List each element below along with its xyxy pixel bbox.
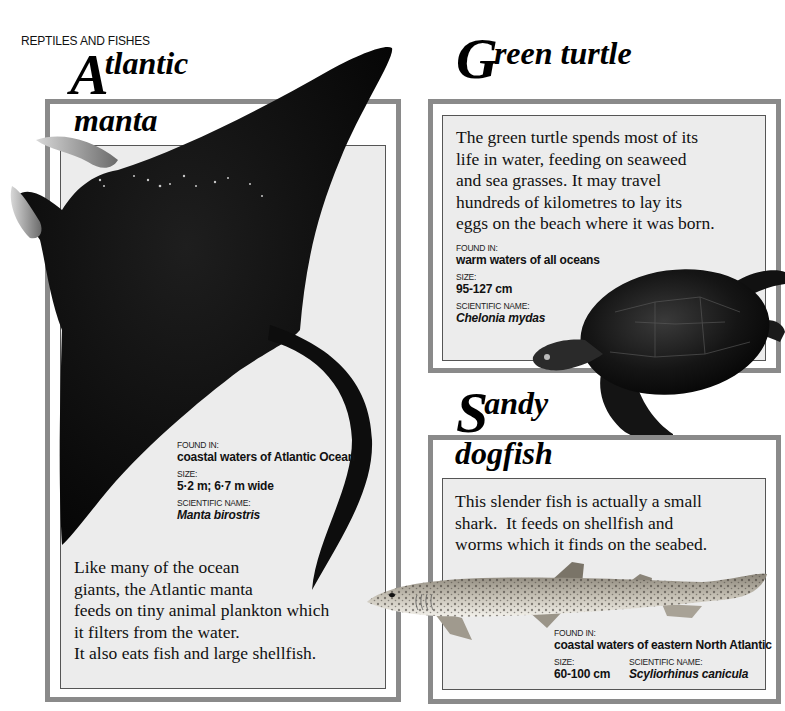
dogfish-found-in-label: FOUND IN:: [554, 628, 774, 638]
manta-description-line: feeds on tiny animal plankton which: [74, 600, 394, 622]
manta-ray-illustration: [0, 0, 420, 620]
turtle-title-rest: reen turtle: [494, 35, 632, 71]
turtle-description: The green turtle spends most of its life…: [456, 127, 766, 235]
dogfish-description-line: worms which it finds on the seabed.: [455, 534, 765, 556]
turtle-description-line: hundreds of kilometres to lay its: [456, 192, 766, 214]
dogfish-title: Sandy: [456, 384, 548, 442]
dogfish-scientific-name: Scyliorhinus canicula: [629, 667, 748, 681]
manta-description-line: Like many of the ocean: [74, 557, 394, 579]
manta-size-label: SIZE:: [177, 469, 377, 479]
turtle-title-initial: G: [456, 26, 494, 91]
manta-size: 5·2 m; 6·7 m wide: [177, 479, 377, 493]
dogfish-title-rest: andy: [484, 385, 548, 421]
manta-description-line: It also eats fish and large shellfish.: [74, 643, 394, 665]
dogfish-description-line: shark. It feeds on shellfish and: [455, 513, 765, 535]
turtle-title: Green turtle: [456, 30, 632, 88]
manta-found-in: coastal waters of Atlantic Ocean: [177, 450, 377, 464]
dogfish-size-label: SIZE:: [554, 657, 629, 667]
dogfish-size-scientific-row: SIZE: 60-100 cm SCIENTIFIC NAME: Scylior…: [554, 657, 774, 681]
manta-description: Like many of the ocean giants, the Atlan…: [74, 557, 394, 665]
turtle-description-line: eggs on the beach where it was born.: [456, 213, 766, 235]
turtle-description-line: and sea grasses. It may travel: [456, 170, 766, 192]
dogfish-title-line2: dogfish: [455, 437, 553, 469]
dogfish-description-line: This slender fish is actually a small: [455, 491, 765, 513]
dogfish-found-in: coastal waters of eastern North Atlantic: [554, 638, 774, 652]
green-turtle-illustration: [525, 262, 785, 447]
turtle-description-line: The green turtle spends most of its: [456, 127, 766, 149]
dogfish-size: 60-100 cm: [554, 667, 629, 681]
manta-scientific-label: SCIENTIFIC NAME:: [177, 498, 377, 508]
manta-scientific-name: Manta birostris: [177, 508, 377, 522]
dogfish-size-block: SIZE: 60-100 cm: [554, 657, 629, 681]
dogfish-scientific-block: SCIENTIFIC NAME: Scyliorhinus canicula: [629, 657, 748, 681]
turtle-found-in-label: FOUND IN:: [456, 243, 656, 253]
manta-description-line: giants, the Atlantic manta: [74, 579, 394, 601]
dogfish-scientific-label: SCIENTIFIC NAME:: [629, 657, 748, 667]
turtle-description-line: life in water, feeding on seaweed: [456, 149, 766, 171]
dogfish-description: This slender fish is actually a small sh…: [455, 491, 765, 556]
manta-found-in-label: FOUND IN:: [177, 440, 377, 450]
manta-facts: FOUND IN: coastal waters of Atlantic Oce…: [177, 440, 377, 522]
manta-description-line: it filters from the water.: [74, 622, 394, 644]
dogfish-facts: FOUND IN: coastal waters of eastern Nort…: [554, 628, 774, 681]
